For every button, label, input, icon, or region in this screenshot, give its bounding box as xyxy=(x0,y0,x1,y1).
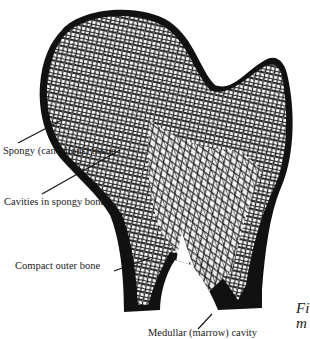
label-spongy-tissue: Spongy (cancellous) tissue xyxy=(3,146,116,157)
label-compact-outer-bone: Compact outer bone xyxy=(15,261,100,272)
label-medullar-cavity: Medullar (marrow) cavity xyxy=(148,328,257,339)
label-cavities-spongy-bone: Cavities in spongy bone xyxy=(4,197,105,208)
figure-caption-fragment-line2: m xyxy=(296,316,307,331)
figure-caption-fragment-line1: Fi xyxy=(296,301,309,316)
